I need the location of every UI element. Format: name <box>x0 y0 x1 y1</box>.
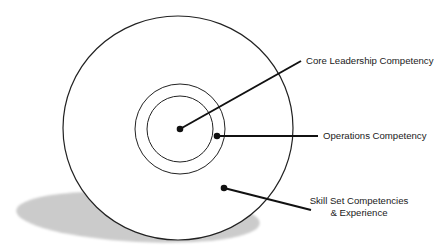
core-leadership-dot <box>177 126 184 133</box>
skill-set-label-line1: Skill Set Competencies <box>310 195 409 206</box>
core-leadership-label: Core Leadership Competency <box>306 55 434 66</box>
skill-set-label-line2: & Experience <box>330 207 387 218</box>
skill-set-dot <box>221 185 228 192</box>
operations-label: Operations Competency <box>323 130 427 141</box>
competency-diagram: Core Leadership Competency Operations Co… <box>0 0 443 252</box>
operations-dot <box>214 133 221 140</box>
